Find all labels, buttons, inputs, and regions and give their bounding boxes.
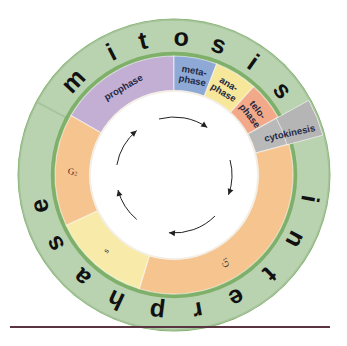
cell-cycle-diagram: mitosisinterphase prophasemeta-phaseana-…: [0, 0, 347, 346]
bottom-divider-line: [10, 326, 330, 328]
ring-letter: o: [173, 22, 190, 51]
inner-phase-ring: [55, 56, 293, 294]
cell-cycle-svg: mitosisinterphase prophasemeta-phaseana-…: [0, 0, 347, 346]
